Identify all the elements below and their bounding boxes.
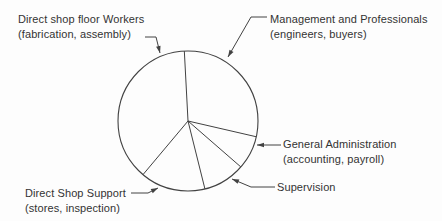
leader-arrowhead-supervision xyxy=(232,179,239,184)
leader-arrowhead-workers xyxy=(156,46,160,53)
label-line-1: Direct shop floor Workers xyxy=(18,12,144,27)
label-line-1: Supervision xyxy=(277,180,336,195)
label-direct-shop-support: Direct Shop Support (stores, inspection) xyxy=(25,186,126,216)
label-line-2: (engineers, buyers) xyxy=(270,27,428,42)
leader-arrowhead-general_admin xyxy=(257,143,264,148)
label-line-2: (stores, inspection) xyxy=(25,201,126,216)
label-supervision: Supervision xyxy=(277,180,336,195)
leader-line-workers xyxy=(145,37,160,53)
label-general-administration: General Administration (accounting, payr… xyxy=(283,137,396,167)
label-line-1: General Administration xyxy=(283,137,396,152)
pie-chart-figure: Direct shop floor Workers (fabrication, … xyxy=(0,0,442,221)
label-direct-shop-floor-workers: Direct shop floor Workers (fabrication, … xyxy=(18,12,144,42)
leader-arrowhead-shop_support xyxy=(151,188,158,193)
label-line-1: Management and Professionals xyxy=(270,12,428,27)
label-line-2: (fabrication, assembly) xyxy=(18,27,144,42)
leader-arrowhead-management xyxy=(228,50,233,57)
label-management-professionals: Management and Professionals (engineers,… xyxy=(270,12,428,42)
leader-line-management xyxy=(228,17,267,57)
label-line-1: Direct Shop Support xyxy=(25,186,126,201)
label-line-2: (accounting, payroll) xyxy=(283,152,396,167)
